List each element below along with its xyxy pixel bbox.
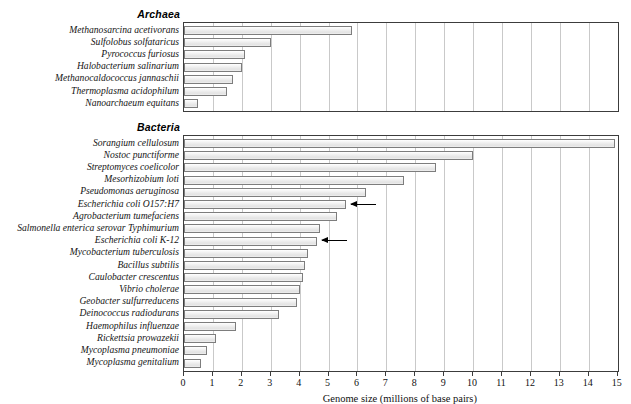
bar <box>184 298 297 307</box>
bar <box>184 75 233 84</box>
x-axis-title: Genome size (millions of base pairs) <box>323 393 477 404</box>
bar <box>184 261 305 270</box>
x-axis-tick-label: 5 <box>325 377 330 388</box>
bar <box>184 249 308 258</box>
x-axis-tick <box>588 372 589 376</box>
archaea-plot-panel <box>183 22 619 112</box>
category-label: Haemophilus influenzae <box>86 321 179 331</box>
category-label: Sulfolobus solfataricus <box>91 37 179 47</box>
gridline-11 <box>502 136 503 371</box>
x-axis-tick <box>414 372 415 376</box>
group-heading-bacteria: Bacteria <box>137 121 180 133</box>
bar <box>184 310 279 319</box>
x-axis-tick-label: 4 <box>296 377 301 388</box>
x-axis-tick-label: 2 <box>238 377 243 388</box>
category-label: Mycoplasma genitalium <box>87 357 179 367</box>
bar <box>184 200 346 209</box>
bar <box>184 322 236 331</box>
category-label: Streptomyces coelicolor <box>87 162 179 172</box>
category-label: Halobacterium salinarium <box>77 61 179 71</box>
bar <box>184 212 337 221</box>
gridline-7 <box>386 23 387 111</box>
category-label: Pseudomonas aeruginosa <box>80 186 179 196</box>
bar <box>184 285 300 294</box>
bar <box>184 237 317 246</box>
category-label: Caulobacter crescentus <box>89 272 180 282</box>
bacteria-plot-panel <box>183 135 619 372</box>
category-label: Salmonella enterica serovar Typhimurium <box>17 223 179 233</box>
annotation-arrow-1 <box>351 204 376 205</box>
x-axis-tick <box>270 372 271 376</box>
gridline-14 <box>589 23 590 111</box>
gridline-12 <box>531 136 532 371</box>
gridline-6 <box>357 23 358 111</box>
category-label: Thermoplasma acidophilum <box>71 86 179 96</box>
bar <box>184 151 473 160</box>
gridline-12 <box>531 23 532 111</box>
bar <box>184 38 271 47</box>
x-axis-tick <box>241 372 242 376</box>
gridline-13 <box>560 23 561 111</box>
gridline-9 <box>444 136 445 371</box>
category-label: Nanoarchaeum equitans <box>85 98 179 108</box>
category-label: Escherichia coli O157:H7 <box>78 199 179 209</box>
category-label: Vibrio cholerae <box>119 284 179 294</box>
x-axis-tick <box>212 372 213 376</box>
x-axis-tick <box>501 372 502 376</box>
group-heading-archaea: Archaea <box>137 8 180 20</box>
gridline-10 <box>473 136 474 371</box>
archaea-gridlines <box>184 23 618 111</box>
gridline-2 <box>242 23 243 111</box>
x-axis-tick <box>183 372 184 376</box>
category-label: Nostoc punctiforme <box>104 150 179 160</box>
bar <box>184 139 615 148</box>
gridline-4 <box>300 23 301 111</box>
x-axis-tick <box>443 372 444 376</box>
bar <box>184 99 198 108</box>
x-axis-tick <box>530 372 531 376</box>
bar <box>184 359 201 368</box>
x-axis-tick <box>299 372 300 376</box>
bar <box>184 224 320 233</box>
category-label: Pyrococcus furiosus <box>101 49 179 59</box>
category-label: Mesorhizobium loti <box>104 174 179 184</box>
category-label: Deinococcus radiodurans <box>80 308 179 318</box>
x-axis-tick-label: 1 <box>209 377 214 388</box>
x-axis-tick-label: 15 <box>612 377 622 388</box>
gridline-8 <box>415 23 416 111</box>
category-label: Escherichia coli K-12 <box>95 235 179 245</box>
x-axis-tick <box>472 372 473 376</box>
x-axis-tick-label: 11 <box>496 377 506 388</box>
x-axis-tick-label: 9 <box>441 377 446 388</box>
category-label: Geobacter sulfurreducens <box>79 296 179 306</box>
category-label: Agrobacterium tumefaciens <box>73 211 179 221</box>
x-axis-tick <box>385 372 386 376</box>
bar <box>184 50 245 59</box>
bar <box>184 176 404 185</box>
category-label: Methanocaldococcus jannaschii <box>55 73 179 83</box>
x-axis-tick-label: 10 <box>467 377 477 388</box>
x-axis-tick <box>328 372 329 376</box>
bar <box>184 26 352 35</box>
x-axis-tick-label: 7 <box>383 377 388 388</box>
x-axis-tick-label: 12 <box>525 377 535 388</box>
x-axis-tick-label: 13 <box>554 377 564 388</box>
gridline-10 <box>473 23 474 111</box>
annotation-arrow-2 <box>322 240 347 241</box>
bar <box>184 87 227 96</box>
bar <box>184 188 366 197</box>
bar <box>184 346 207 355</box>
category-label: Bacillus subtilis <box>117 260 179 270</box>
gridline-11 <box>502 23 503 111</box>
x-axis-tick-label: 3 <box>267 377 272 388</box>
gridline-14 <box>589 136 590 371</box>
x-axis-tick <box>559 372 560 376</box>
x-axis-tick <box>356 372 357 376</box>
x-axis-tick-label: 0 <box>181 377 186 388</box>
category-label: Methanosarcina acetivorans <box>69 25 179 35</box>
gridline-9 <box>444 23 445 111</box>
category-label: Mycoplasma pneumoniae <box>81 345 179 355</box>
bar <box>184 63 242 72</box>
category-label: Mycobacterium tuberculosis <box>70 247 179 257</box>
